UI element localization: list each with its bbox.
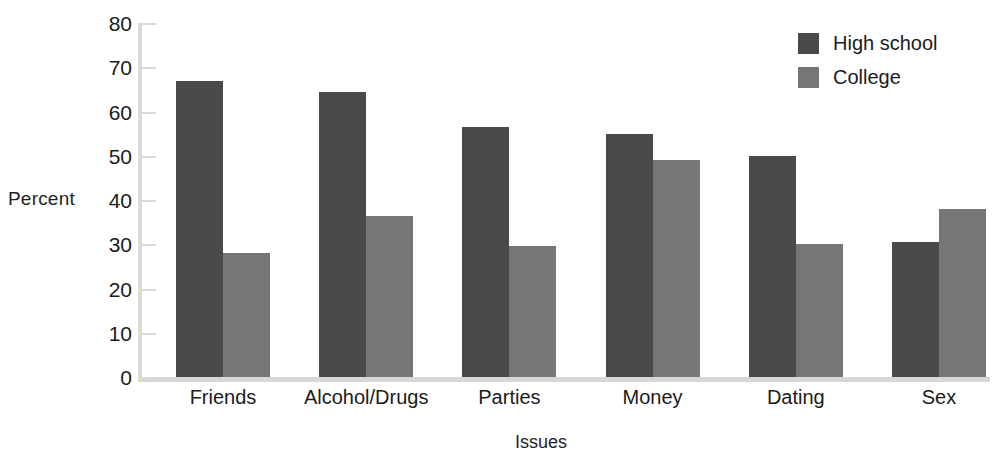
legend-item[interactable]: College — [798, 60, 994, 94]
chart-legend: High schoolCollege — [798, 26, 994, 94]
bar-group — [606, 23, 700, 377]
y-tick-mark — [142, 244, 156, 246]
y-tick-mark — [142, 156, 156, 158]
bar-college[interactable] — [223, 253, 270, 377]
y-tick-mark — [142, 200, 156, 202]
bar-college[interactable] — [509, 246, 556, 377]
y-tick-label: 60 — [98, 101, 132, 122]
x-axis-line — [138, 377, 990, 382]
legend-item[interactable]: High school — [798, 26, 994, 60]
bar-college[interactable] — [939, 209, 986, 377]
y-tick-mark — [142, 67, 156, 69]
y-tick-label: 10 — [98, 322, 132, 343]
bar-college[interactable] — [653, 160, 700, 377]
bar-college[interactable] — [366, 216, 413, 378]
bar-group — [462, 23, 556, 377]
bar-high-school[interactable] — [749, 156, 796, 377]
bar-group — [319, 23, 413, 377]
legend-swatch-icon — [798, 33, 819, 54]
legend-label: College — [833, 66, 901, 89]
y-tick-label: 30 — [98, 234, 132, 255]
category-label: Parties — [478, 386, 540, 409]
y-tick-label: 40 — [98, 190, 132, 211]
y-tick-label: 0 — [98, 367, 132, 388]
y-axis-tick-labels: 01020304050607080 — [98, 0, 132, 471]
category-label: Sex — [922, 386, 956, 409]
y-tick-label: 20 — [98, 278, 132, 299]
bar-high-school[interactable] — [176, 81, 223, 377]
x-axis-title-text: Issues — [515, 432, 567, 453]
legend-swatch-icon — [798, 67, 819, 88]
category-label: Friends — [190, 386, 257, 409]
bar-chart: Percent 01020304050607080 FriendsAlcohol… — [0, 0, 998, 471]
category-label: Money — [623, 386, 683, 409]
legend-label: High school — [833, 32, 938, 55]
y-tick-mark — [142, 333, 156, 335]
y-tick-label: 80 — [98, 13, 132, 34]
y-axis-title: Percent — [8, 188, 100, 210]
category-label: Alcohol/Drugs — [304, 386, 429, 409]
y-tick-mark — [142, 23, 156, 25]
x-axis-title: Issues — [0, 432, 998, 453]
bar-high-school[interactable] — [319, 92, 366, 377]
y-tick-label: 50 — [98, 145, 132, 166]
bar-group — [176, 23, 270, 377]
bar-high-school[interactable] — [606, 134, 653, 377]
bar-high-school[interactable] — [462, 127, 509, 377]
category-label: Dating — [767, 386, 825, 409]
bar-high-school[interactable] — [892, 242, 939, 377]
y-tick-mark — [142, 112, 156, 114]
bar-college[interactable] — [796, 244, 843, 377]
x-axis-category-labels: FriendsAlcohol/DrugsPartiesMoneyDatingSe… — [138, 386, 986, 416]
y-tick-mark — [142, 289, 156, 291]
y-tick-label: 70 — [98, 57, 132, 78]
y-tick-mark — [142, 377, 156, 379]
